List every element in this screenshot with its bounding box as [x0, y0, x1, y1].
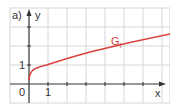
origin-label: 0: [19, 86, 25, 98]
y-tick-label-1: 1: [19, 59, 25, 71]
curve-label-sub: f: [120, 42, 122, 49]
panel-label: a): [12, 9, 22, 21]
curve-label-main: G: [111, 35, 120, 47]
function-graph: a) y x 0 1 1 Gf: [0, 0, 170, 110]
x-tick-label-1: 1: [45, 86, 51, 98]
x-axis-label: x: [155, 87, 161, 99]
y-axis-label: y: [35, 9, 41, 21]
plot-border: [10, 8, 170, 103]
